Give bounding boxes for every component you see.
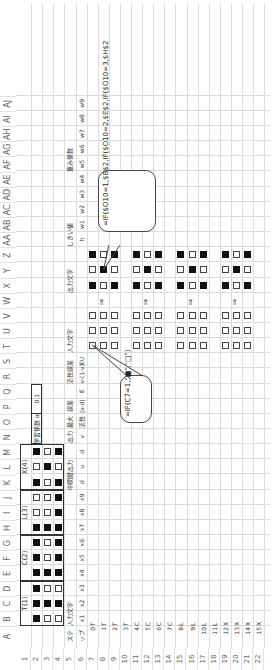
row-header-19[interactable]: 19: [220, 648, 231, 670]
input-display-cell: [144, 342, 151, 349]
column-header-p[interactable]: P: [0, 399, 16, 414]
input-display-cell: [189, 327, 196, 334]
column-header-ab[interactable]: AB: [0, 217, 16, 232]
output-display-cell: [189, 251, 196, 258]
output-display-cell: [111, 282, 118, 289]
input-display-cell: [133, 342, 140, 349]
column-header-e[interactable]: E: [0, 565, 16, 580]
column-header-q[interactable]: Q: [0, 384, 16, 399]
row-header-20[interactable]: 20: [231, 648, 242, 670]
row-header-2[interactable]: 2: [31, 648, 42, 670]
column-header-af[interactable]: AF: [0, 156, 16, 171]
row-header-1[interactable]: 1: [20, 648, 31, 670]
pattern-group-border: [20, 581, 64, 626]
column-header-ad[interactable]: AD: [0, 187, 16, 202]
output-display-cell: [200, 266, 207, 273]
output-display-cell: [177, 282, 184, 289]
input-display-cell: [222, 312, 229, 319]
header-p-row6: |v-d|: [76, 399, 87, 414]
header-k-row6: d: [76, 475, 87, 490]
column-header-o[interactable]: O: [0, 414, 16, 429]
column-header-aj[interactable]: AJ: [0, 96, 16, 111]
column-header-n[interactable]: N: [0, 429, 16, 444]
row-header-16[interactable]: 16: [187, 648, 198, 670]
output-display-cell: [233, 282, 240, 289]
column-header-f[interactable]: F: [0, 550, 16, 565]
learning-rate-divider: [31, 413, 42, 414]
row-header-22[interactable]: 22: [253, 648, 264, 670]
column-header-j[interactable]: J: [0, 490, 16, 505]
row-header-18[interactable]: 18: [209, 648, 220, 670]
row-header-15[interactable]: 15: [175, 648, 186, 670]
column-header-aa[interactable]: AA: [0, 232, 16, 247]
row-header-3[interactable]: 3: [42, 648, 53, 670]
step-char: X: [220, 611, 231, 626]
column-header-y[interactable]: Y: [0, 262, 16, 277]
header-s-row6: EU: [76, 353, 87, 368]
row-header-21[interactable]: 21: [242, 648, 253, 670]
step-number: 1: [98, 626, 109, 646]
column-header-z[interactable]: Z: [0, 247, 16, 262]
output-display-cell: [133, 251, 140, 258]
output-display-cell: [177, 266, 184, 273]
spreadsheet[interactable]: ABCDEFGHIJKLMNOPQRSTUVWXYZAAABACADAEAFAG…: [0, 0, 276, 670]
row-header-8[interactable]: 8: [98, 648, 109, 670]
column-header-l[interactable]: L: [0, 459, 16, 474]
column-header-d[interactable]: D: [0, 581, 16, 596]
output-display-cell: [155, 282, 162, 289]
column-header-v[interactable]: V: [0, 308, 16, 323]
header-f-row6: x5: [76, 550, 87, 565]
row-header-5[interactable]: 5: [64, 648, 75, 670]
input-display-cell: [155, 342, 162, 349]
row-header-4[interactable]: 4: [53, 648, 64, 670]
column-header-g[interactable]: G: [0, 535, 16, 550]
column-header-x[interactable]: X: [0, 278, 16, 293]
output-display-cell: [222, 251, 229, 258]
row-header-12[interactable]: 12: [142, 648, 153, 670]
input-display-cell: [100, 327, 107, 334]
column-header-r[interactable]: R: [0, 368, 16, 383]
row-header-17[interactable]: 17: [198, 648, 209, 670]
header-ac-row6: w2: [76, 202, 87, 217]
column-header-ac[interactable]: AC: [0, 202, 16, 217]
row-header-6[interactable]: 6: [76, 648, 87, 670]
row-header-10[interactable]: 10: [120, 648, 131, 670]
header-e-row6: x4: [76, 565, 87, 580]
column-header-h[interactable]: H: [0, 520, 16, 535]
column-header-m[interactable]: M: [0, 444, 16, 459]
input-display-cell: [111, 327, 118, 334]
column-header-ai[interactable]: AI: [0, 111, 16, 126]
step-char: L: [209, 611, 220, 626]
column-header-k[interactable]: K: [0, 475, 16, 490]
row-header-13[interactable]: 13: [153, 648, 164, 670]
column-header-a[interactable]: A: [0, 626, 16, 646]
header-g-row6: x6: [76, 535, 87, 550]
column-header-c[interactable]: C: [0, 596, 16, 611]
pattern-group-border: [20, 535, 64, 580]
output-display-cell: [200, 251, 207, 258]
row-header-14[interactable]: 14: [164, 648, 175, 670]
column-header-w[interactable]: W: [0, 293, 16, 308]
column-header-t[interactable]: T: [0, 338, 16, 353]
input-display-cell: [155, 327, 162, 334]
column-header-u[interactable]: U: [0, 323, 16, 338]
header-b-row6: x1: [76, 611, 87, 626]
row-header-7[interactable]: 7: [87, 648, 98, 670]
output-display-cell: [144, 251, 151, 258]
column-header-ae[interactable]: AE: [0, 172, 16, 187]
row-header-9[interactable]: 9: [109, 648, 120, 670]
output-display-cell: [111, 266, 118, 273]
output-display-cell: [222, 282, 229, 289]
header-d-row6: x3: [76, 581, 87, 596]
column-header-b[interactable]: B: [0, 611, 16, 626]
gridline: [187, 4, 188, 648]
column-header-ah[interactable]: AH: [0, 126, 16, 141]
input-display-cell: [133, 327, 140, 334]
header-t-row5: 入力文字: [64, 338, 75, 353]
gridline: [209, 4, 210, 648]
column-header-ag[interactable]: AG: [0, 141, 16, 156]
column-header-s[interactable]: S: [0, 353, 16, 368]
step-number: 4: [131, 626, 142, 646]
row-header-11[interactable]: 11: [131, 648, 142, 670]
column-header-i[interactable]: I: [0, 505, 16, 520]
